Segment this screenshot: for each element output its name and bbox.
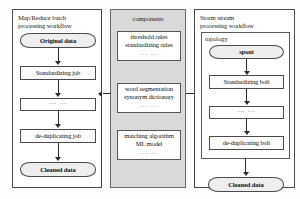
node-spout[interactable]: spout <box>209 45 284 59</box>
connector-components-to-batch <box>103 93 111 94</box>
component-threshold-rules-line2: standardizing rules <box>125 41 172 49</box>
node-de-duplicating-job[interactable]: de-duplicating job <box>20 129 96 143</box>
component-word-segmentation-line1: word segmentation <box>125 85 173 93</box>
component-threshold-rules-line1: threshold rules <box>131 33 168 41</box>
panel-stream-title-line1: Storm stream <box>200 14 234 22</box>
component-word-segmentation-line2: synonym dictionary <box>124 93 174 101</box>
arrow-standardizing-bolt-to-ellipsis <box>246 89 247 101</box>
component-word-segmentation-dots: ··· ··· <box>140 103 157 111</box>
node-stream-ellipsis: ··· ··· <box>209 106 284 119</box>
node-cleaned-data-batch[interactable]: Cleaned data <box>20 162 96 177</box>
arrow-ellipsis-to-dedup-bolt <box>246 119 247 131</box>
node-standardizing-bolt[interactable]: Standardizing bolt <box>209 75 284 89</box>
component-threshold-rules[interactable]: threshold rules standardizing rules ··· … <box>117 31 181 61</box>
group-topology: topology spout Standardizing bolt ··· ··… <box>201 32 290 159</box>
panel-batch-title-line2: processing workflow <box>18 22 72 30</box>
component-threshold-rules-dots: ··· ··· <box>140 51 157 59</box>
panel-stream-workflow: Storm stream processing workflow topolog… <box>194 9 295 188</box>
arrow-dedup-to-cleaned <box>58 143 59 157</box>
component-matching-algorithm-line2: ML model <box>136 140 163 148</box>
panel-batch-title-line1: Map/Reduce batch <box>18 14 66 22</box>
arrow-spout-to-standardizing-bolt <box>246 59 247 71</box>
node-batch-ellipsis: ··· ··· <box>20 98 96 111</box>
component-matching-algorithm-line1: matching algorithm <box>124 132 173 140</box>
node-de-duplicating-bolt[interactable]: de-duplicating bolt <box>209 136 284 150</box>
panel-batch-workflow: Map/Reduce batch processing workflow Ori… <box>12 9 102 188</box>
arrow-standardizing-to-ellipsis <box>58 80 59 93</box>
panel-components-title: components <box>111 15 185 23</box>
arrow-ellipsis-to-dedup <box>58 111 59 124</box>
arrow-original-to-standardizing <box>58 48 59 61</box>
arrow-topology-to-cleaned <box>245 159 246 172</box>
group-topology-label: topology <box>205 35 228 42</box>
component-matching-algorithm-dots: ··· ··· <box>140 150 157 158</box>
node-cleaned-data-stream[interactable]: Cleaned data <box>208 177 284 192</box>
component-matching-algorithm[interactable]: matching algorithm ML model ··· ··· <box>117 130 181 160</box>
panel-components: components threshold rules standardizing… <box>110 9 186 188</box>
node-standardizing-job[interactable]: Standardizing job <box>20 66 96 80</box>
diagram-canvas: Map/Reduce batch processing workflow Ori… <box>0 0 300 199</box>
component-word-segmentation[interactable]: word segmentation synonym dictionary ···… <box>117 83 181 113</box>
node-original-data[interactable]: Original data <box>20 33 96 48</box>
connector-components-to-stream <box>186 93 194 94</box>
panel-stream-title-line2: processing workflow <box>200 22 254 30</box>
